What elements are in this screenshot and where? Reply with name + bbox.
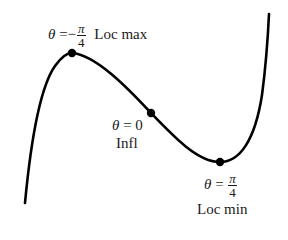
equals-sign: = — [123, 117, 131, 133]
loc-min-dot — [216, 158, 224, 166]
inflection-text: Infl — [116, 136, 138, 151]
loc-min-text: Loc min — [197, 202, 247, 217]
equals-sign: = — [215, 176, 223, 192]
inflection-label: θ = 0 — [112, 118, 143, 133]
loc-max-text: Loc max — [94, 26, 147, 42]
denominator: 4 — [78, 36, 85, 50]
denominator: 4 — [229, 186, 236, 200]
equals-sign: = — [59, 26, 67, 42]
loc-min-label: θ = π4 — [204, 172, 238, 200]
theta-symbol: θ — [48, 26, 55, 42]
minus-sign: − — [68, 26, 76, 42]
loc-max-label: θ =−π4 Loc max — [48, 22, 147, 50]
theta-symbol: θ — [204, 176, 211, 192]
fraction: π4 — [228, 172, 237, 200]
fraction: π4 — [77, 22, 86, 50]
theta-symbol: θ — [112, 117, 119, 133]
numerator: π — [77, 22, 86, 36]
inflection-dot — [147, 109, 155, 117]
theta-value: 0 — [135, 117, 143, 133]
loc-max-dot — [68, 49, 76, 57]
numerator: π — [228, 172, 237, 186]
